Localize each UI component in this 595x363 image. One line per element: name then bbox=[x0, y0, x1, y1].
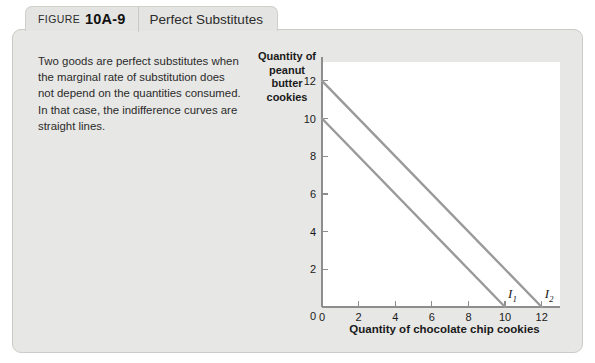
indifference-curve-I2 bbox=[322, 81, 542, 307]
figure-caption: Two goods are perfect substitutes when t… bbox=[38, 53, 243, 134]
figure-tab-title: Perfect Substitutes bbox=[150, 12, 277, 27]
indifference-curve-I1 bbox=[322, 119, 505, 307]
figure-tab-divider bbox=[138, 7, 139, 32]
figure-tab-number: 10A-9 bbox=[85, 11, 126, 27]
chart-svg bbox=[252, 45, 570, 340]
chart-curves bbox=[322, 81, 542, 307]
figure-tab: FIGURE 10A-9 Perfect Substitutes bbox=[25, 6, 278, 31]
curve-label-subscript: 2 bbox=[549, 294, 554, 304]
indifference-curve-chart: Quantity of peanut butter cookies Quanti… bbox=[252, 45, 570, 340]
figure-tab-word: FIGURE bbox=[38, 13, 80, 25]
curve-label-I1: I1 bbox=[508, 286, 517, 304]
curve-label-subscript: 1 bbox=[512, 294, 517, 304]
curve-label-I2: I2 bbox=[545, 286, 554, 304]
chart-axes bbox=[322, 57, 560, 307]
